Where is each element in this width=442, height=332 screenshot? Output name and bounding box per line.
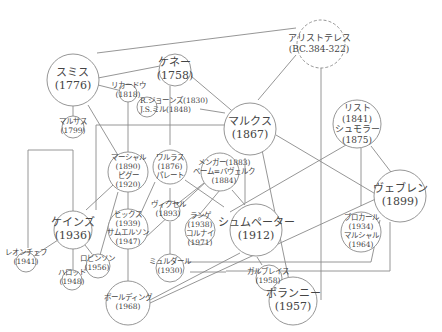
label-jones-mill: R.ジョーンズ(1830) J.S.ミル(1848) — [140, 97, 208, 115]
node-year: (1776) — [55, 80, 92, 93]
node-year: J.S.ミル(1848) — [140, 106, 208, 115]
node-year: (1799) — [59, 127, 87, 136]
label-marx: マルクス (1867) — [228, 116, 272, 142]
node-year: (1912) — [218, 230, 295, 243]
label-veblen: ヴェブレン (1899) — [373, 183, 428, 209]
label-marshall-pigou: マーシャル (1890) ピグー (1920) — [111, 154, 146, 189]
node-year: (1875) — [335, 135, 380, 146]
label-wicksell: ヴィクセル (1893) — [151, 201, 186, 219]
label-leontief: レオンチェフ (1941) — [5, 249, 47, 267]
label-harrod: ハロッド (1948) — [58, 269, 86, 287]
node-year: (1941) — [5, 258, 47, 267]
label-walras-pareto: ワルラス (1876) パレート — [156, 154, 184, 181]
label-malthus: マルサス (1799) — [59, 118, 87, 136]
node-year: (1936) — [51, 230, 95, 243]
label-schumpeter: シュムペーター (1912) — [218, 217, 295, 243]
label-galbraith: ガルブレイス (1958) — [247, 268, 289, 286]
label-lange-kornai: ランゲ (1938) コルナイ (1971) — [186, 212, 214, 247]
node-year: (1958) — [247, 277, 289, 286]
label-quesnay: ケネー (1758) — [157, 57, 194, 83]
node-name: シュモラー — [335, 124, 380, 135]
label-hicks-samuelson: ヒックス (1939) サムエルソン (1947) — [107, 211, 149, 246]
label-myrdal: ミュルダール (1930) — [149, 258, 191, 276]
node-name: リスト — [335, 103, 380, 114]
node-year: (1930) — [149, 267, 191, 276]
label-list-schmoller: リスト (1841) シュモラー (1875) — [335, 103, 380, 145]
node-year: (1964) — [344, 241, 379, 250]
node-year: (1758) — [157, 70, 194, 83]
node-year: (1867) — [228, 129, 272, 142]
node-year: (1947) — [107, 238, 149, 247]
label-brocard-marshall: ブロカール (1934) マルシャル (1964) — [344, 214, 379, 249]
label-menger-bawerk: メンガー(1883) ベーム=バヴェルク (1884) — [193, 159, 255, 186]
label-polanyi: ポランニー (1957) — [266, 288, 321, 314]
node-year: (1920) — [111, 181, 146, 190]
node-year: (1841) — [335, 113, 380, 124]
node-year: (1957) — [266, 301, 321, 314]
label-smith: スミス (1776) — [55, 67, 92, 93]
label-boulding: ボールディング (1968) — [104, 294, 152, 312]
node-year: (1884) — [193, 176, 255, 185]
node-name: アリストテレス — [288, 33, 351, 44]
node-year: (1948) — [58, 278, 86, 287]
label-aristotle: アリストテレス (BC.384-322) — [288, 33, 351, 54]
label-keynes: ケインズ (1936) — [51, 217, 95, 243]
node-year: (1899) — [373, 196, 428, 209]
node-year: (1968) — [104, 303, 152, 312]
node-name: パレート — [156, 171, 184, 180]
node-year: (1893) — [151, 210, 186, 219]
node-year: (BC.384-322) — [288, 44, 351, 55]
node-year: (1971) — [186, 239, 214, 248]
